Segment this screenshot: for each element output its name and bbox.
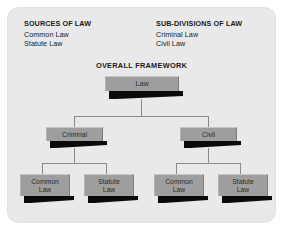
node-criminal-common-law-line1: Common: [31, 178, 59, 185]
legend-sources-item-1: Statute Law: [24, 39, 91, 48]
connector-civil-drop: [208, 148, 209, 163]
node-civil: Civil: [180, 127, 237, 149]
legend-sub-divisions-of-law: SUB-DIVISIONS OF LAW Criminal Law Civil …: [156, 19, 242, 48]
node-criminal: Criminal: [46, 127, 103, 149]
node-criminal-common-law-shadow: [24, 196, 74, 203]
legend-subdivisions-item-0: Criminal Law: [156, 30, 242, 39]
node-criminal-statute-law-line2: Law: [103, 186, 115, 193]
node-civil-face: Civil: [180, 127, 237, 141]
node-civil-common-law-line2: Law: [173, 186, 185, 193]
legend-sources-item-0: Common Law: [24, 30, 91, 39]
node-law-shadow: [109, 91, 183, 99]
node-criminal-common-law-face: Common Law: [20, 174, 70, 196]
connector-civil-to-common: [176, 163, 177, 174]
connector-criminal-bar: [42, 163, 107, 164]
node-civil-common-law-line1: Common: [165, 178, 193, 185]
node-law-label: Law: [135, 80, 148, 88]
node-civil-statute-law-line2: Law: [237, 186, 249, 193]
node-civil-common-law-shadow: [158, 196, 208, 203]
node-criminal-statute-law-face: Statute Law: [84, 174, 134, 196]
node-civil-common-law-face: Common Law: [154, 174, 204, 196]
node-civil-statute-law-face: Statute Law: [218, 174, 268, 196]
node-law-face: Law: [105, 76, 179, 91]
connector-law-drop: [141, 99, 142, 116]
node-criminal-shadow: [50, 141, 107, 148]
node-law: Law: [105, 76, 179, 100]
overall-framework-title: OVERALL FRAMEWORK: [0, 61, 283, 70]
connector-civil-to-statute: [240, 163, 241, 174]
node-criminal-label: Criminal: [62, 131, 87, 139]
connector-criminal-to-common: [42, 163, 43, 174]
connector-to-civil: [208, 116, 209, 127]
legend-sources-of-law: SOURCES OF LAW Common Law Statute Law: [24, 19, 91, 48]
node-civil-common-law: Common Law: [154, 174, 204, 204]
legend-sources-title: SOURCES OF LAW: [24, 19, 91, 28]
node-civil-label: Civil: [202, 131, 215, 139]
connector-civil-bar: [176, 163, 241, 164]
node-civil-statute-law-shadow: [222, 196, 272, 203]
node-civil-statute-law-line1: Statute: [232, 178, 254, 185]
node-civil-shadow: [184, 141, 241, 148]
node-criminal-common-law: Common Law: [20, 174, 70, 204]
legend-subdivisions-item-1: Civil Law: [156, 39, 242, 48]
diagram-canvas: SOURCES OF LAW Common Law Statute Law SU…: [0, 0, 283, 234]
connector-law-bar: [74, 116, 209, 117]
node-criminal-statute-law-shadow: [88, 196, 138, 203]
node-criminal-statute-law: Statute Law: [84, 174, 134, 204]
connector-criminal-drop: [74, 148, 75, 163]
legend-subdivisions-title: SUB-DIVISIONS OF LAW: [156, 19, 242, 28]
node-criminal-face: Criminal: [46, 127, 103, 141]
node-civil-statute-law: Statute Law: [218, 174, 268, 204]
connector-to-criminal: [74, 116, 75, 127]
node-criminal-statute-law-line1: Statute: [98, 178, 120, 185]
connector-criminal-to-statute: [106, 163, 107, 174]
node-criminal-common-law-line2: Law: [39, 186, 51, 193]
